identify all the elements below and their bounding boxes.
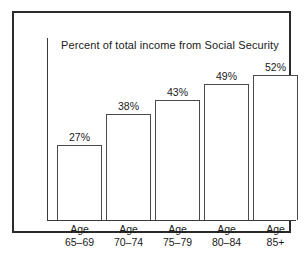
category-label-line2: 65–69 xyxy=(57,236,102,249)
category-label: Age 75–79 xyxy=(155,223,200,248)
chart-title: Percent of total income from Social Secu… xyxy=(61,39,279,51)
category-label-line1: Age xyxy=(155,223,200,236)
category-label-line1: Age xyxy=(253,223,298,236)
bar[interactable] xyxy=(253,75,298,220)
bar[interactable] xyxy=(155,100,200,220)
bar[interactable] xyxy=(204,84,249,220)
category-label: Age 80–84 xyxy=(204,223,249,248)
bar-slot: 43% xyxy=(155,53,200,220)
bar-value-label: 38% xyxy=(106,100,151,112)
bar-slot: 49% xyxy=(204,53,249,220)
bar-value-label: 49% xyxy=(204,70,249,82)
category-label: Age 65–69 xyxy=(57,223,102,248)
category-label-line2: 75–79 xyxy=(155,236,200,249)
bar-value-label: 43% xyxy=(155,86,200,98)
x-axis-line xyxy=(47,220,296,221)
bar-slot: 27% xyxy=(57,53,102,220)
bar-value-label: 27% xyxy=(57,131,102,143)
bar-slot: 38% xyxy=(106,53,151,220)
category-label-line1: Age xyxy=(106,223,151,236)
x-axis-category-labels: Age 65–69 Age 70–74 Age 75–79 Age 80–84 … xyxy=(57,223,297,253)
category-label-line2: 80–84 xyxy=(204,236,249,249)
bar-chart-figure: Percent of total income from Social Secu… xyxy=(0,0,307,257)
category-label-line1: Age xyxy=(204,223,249,236)
category-label: Age 70–74 xyxy=(106,223,151,248)
category-label-line2: 70–74 xyxy=(106,236,151,249)
bar[interactable] xyxy=(106,114,151,220)
category-label: Age 85+ xyxy=(253,223,298,248)
bar-slot: 52% xyxy=(253,53,298,220)
bars-group: 27% 38% 43% 49% 52% xyxy=(57,53,297,220)
chart-frame: Percent of total income from Social Secu… xyxy=(12,11,291,233)
bar[interactable] xyxy=(57,145,102,220)
y-axis-line xyxy=(47,38,48,220)
category-label-line2: 85+ xyxy=(253,236,298,249)
bar-value-label: 52% xyxy=(253,61,298,73)
category-label-line1: Age xyxy=(57,223,102,236)
